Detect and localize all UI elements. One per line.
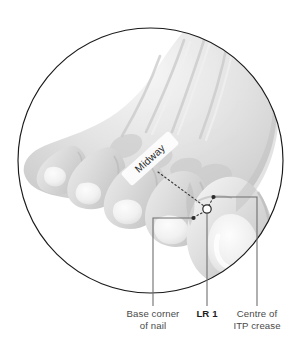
caption-centre-of-itp-crease: Centre of ITP crease <box>210 308 298 331</box>
lr1-point-marker[interactable] <box>203 205 211 213</box>
dot-base-corner-of-nail <box>191 216 195 220</box>
anatomical-illustration <box>0 0 298 357</box>
caption-base-corner-of-nail-line2: of nail <box>103 320 203 332</box>
toe-3-nail <box>113 199 142 224</box>
toe-4-nail <box>76 182 102 204</box>
dot-centre-of-itp-crease <box>211 195 215 199</box>
caption-centre-of-itp-crease-line1: Centre of <box>237 308 277 319</box>
caption-base-corner-of-nail-line1: Base corner <box>127 308 180 319</box>
figure-root: Midway Base corner of nail LR 1 Centre o… <box>0 0 298 357</box>
midway-label: Midway <box>118 150 182 167</box>
caption-centre-of-itp-crease-line2: ITP crease <box>210 320 298 332</box>
